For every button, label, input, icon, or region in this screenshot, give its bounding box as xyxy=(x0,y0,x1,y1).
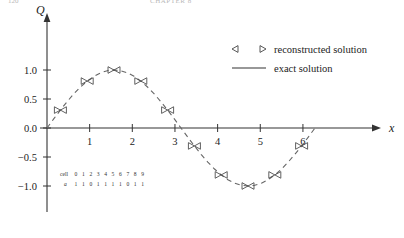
triangle-left-icon xyxy=(194,143,200,150)
triangle-right-icon xyxy=(162,107,168,114)
y-tick-group: 1.00.50.0−0.5−1.0 xyxy=(18,65,51,192)
cell-value: 1 xyxy=(75,181,78,187)
legend-item-reconstructed: reconstructed solution xyxy=(232,44,368,55)
reconstructed-marker-pair xyxy=(108,67,120,74)
cell-value: 1 xyxy=(119,181,122,187)
chart-plot: Q x 123456 1.00.50.0−0.5−1.0 reconstruct… xyxy=(0,0,404,238)
y-tick-label: 0.5 xyxy=(24,94,37,105)
reconstructed-marker-pair xyxy=(269,172,281,179)
figure-container: 120 CHAPTER 8 Q x 123456 1.00.50.0−0.5−1… xyxy=(0,0,404,238)
cell-index: 5 xyxy=(112,171,115,177)
cell-value: 1 xyxy=(141,181,144,187)
cell-index: 6 xyxy=(119,171,122,177)
cell-index: 3 xyxy=(97,171,100,177)
running-title: CHAPTER 8 xyxy=(150,0,192,5)
triangle-right-icon xyxy=(215,172,221,179)
y-tick-label: 1.0 xyxy=(24,65,37,76)
cell-index: 2 xyxy=(89,171,92,177)
cell-value: 1 xyxy=(97,181,100,187)
x-axis-label: x xyxy=(388,121,395,135)
reconstructed-marker-pair xyxy=(162,107,174,114)
x-tick-label: 4 xyxy=(215,136,221,147)
x-tick-label: 3 xyxy=(172,136,177,147)
triangle-right-icon xyxy=(54,107,60,114)
triangle-left-icon xyxy=(141,78,147,85)
cell-index: 8 xyxy=(134,171,137,177)
triangle-left-icon xyxy=(168,107,174,114)
triangle-right-icon xyxy=(188,143,194,150)
x-tick-label: 2 xyxy=(130,136,135,147)
cell-value: 1 xyxy=(82,181,85,187)
legend-label-reconstructed: reconstructed solution xyxy=(274,44,368,55)
reconstructed-marker-pair xyxy=(81,78,93,85)
x-tick-label: 5 xyxy=(258,136,263,147)
page-number: 120 xyxy=(8,0,19,5)
cell-value: 0 xyxy=(126,181,129,187)
triangle-left-icon xyxy=(60,107,66,114)
legend-item-exact: exact solution xyxy=(232,63,333,74)
a-row-label: a xyxy=(64,181,67,187)
reconstructed-marker-pair xyxy=(54,107,66,114)
x-axis-arrow xyxy=(372,125,381,132)
cell-annotation-table: cell a 0123456789 1101111011 xyxy=(60,171,144,187)
cell-index: 4 xyxy=(104,171,107,177)
page-header: 120 CHAPTER 8 xyxy=(0,0,404,5)
cell-index: 1 xyxy=(82,171,85,177)
cell-number-group: 0123456789 xyxy=(75,171,145,177)
cell-value-group: 1101111011 xyxy=(75,181,145,187)
triangle-right-icon xyxy=(260,46,266,53)
y-axis-label: Q xyxy=(36,3,45,17)
legend-label-exact: exact solution xyxy=(274,63,333,74)
legend: reconstructed solution exact solution xyxy=(232,44,368,74)
y-tick-label: −0.5 xyxy=(18,152,37,163)
cell-index: 9 xyxy=(141,171,144,177)
y-tick-label: −1.0 xyxy=(18,181,37,192)
cell-value: 1 xyxy=(134,181,137,187)
cell-value: 0 xyxy=(89,181,92,187)
cell-row-label: cell xyxy=(60,171,69,177)
y-tick-label: 0.0 xyxy=(24,123,37,134)
cell-index: 7 xyxy=(126,171,129,177)
reconstructed-marker-pair xyxy=(215,172,227,179)
cell-index: 0 xyxy=(75,171,78,177)
reconstructed-marker-pair xyxy=(188,143,200,150)
cell-value: 1 xyxy=(112,181,115,187)
reconstructed-marker-pair xyxy=(135,78,147,85)
x-tick-label: 1 xyxy=(87,136,92,147)
triangle-left-icon xyxy=(232,46,238,53)
cell-value: 1 xyxy=(104,181,107,187)
